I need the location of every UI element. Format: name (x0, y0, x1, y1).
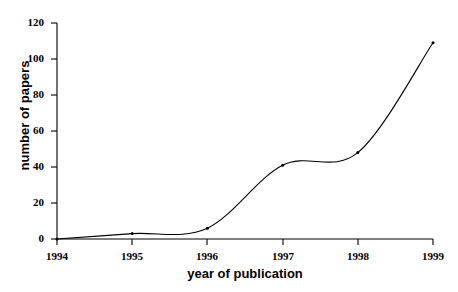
y-tick-label-60: 60 (10, 124, 44, 136)
y-tick-label-0: 0 (10, 232, 44, 244)
series-markers (56, 41, 435, 240)
x-tick-label-1999: 1999 (410, 250, 456, 262)
chart-plot-area (0, 0, 458, 292)
data-point-1999 (432, 41, 435, 44)
x-tick-label-1996: 1996 (184, 250, 230, 262)
y-tick-label-100: 100 (10, 52, 44, 64)
y-tick-label-80: 80 (10, 88, 44, 100)
data-point-1995 (131, 232, 134, 235)
y-axis-ticks (51, 23, 57, 239)
data-point-1998 (356, 151, 359, 154)
x-axis-ticks (57, 239, 433, 245)
x-axis-title: year of publication (57, 266, 433, 281)
data-point-1996 (206, 227, 209, 230)
x-tick-label-1997: 1997 (260, 250, 306, 262)
y-tick-label-40: 40 (10, 160, 44, 172)
series-line-number-of-papers (57, 43, 433, 239)
chart-container: number of papers year of publication 120… (0, 0, 458, 292)
x-tick-label-1998: 1998 (335, 250, 381, 262)
y-tick-label-20: 20 (10, 196, 44, 208)
data-point-1997 (281, 164, 284, 167)
y-tick-label-120: 120 (10, 16, 44, 28)
x-tick-label-1994: 1994 (34, 250, 80, 262)
x-tick-label-1995: 1995 (109, 250, 155, 262)
data-point-1994 (56, 238, 59, 241)
